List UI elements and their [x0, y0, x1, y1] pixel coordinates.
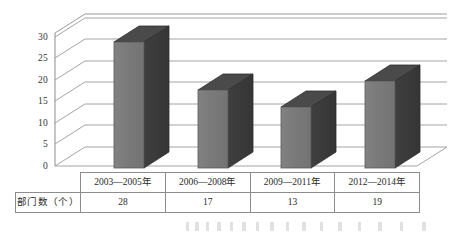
- table-value-2009-2011: 13: [250, 193, 335, 213]
- table-header-2003-2005: 2003—2005年: [81, 173, 166, 193]
- table-value-2003-2005: 28: [81, 193, 166, 213]
- table-header-2009-2011: 2009—2011年: [250, 173, 335, 193]
- table-header-2006-2008: 2006—2008年: [165, 173, 250, 193]
- table-corner-cell: [16, 173, 81, 193]
- table-row-categories: 2003—2005年 2006—2008年 2009—2011年 2012—20…: [16, 173, 420, 193]
- value-axis: [55, 33, 85, 166]
- ytick-label-10: 10: [18, 118, 48, 128]
- ytick-label-5: 5: [18, 139, 48, 149]
- ytick-label-20: 20: [18, 75, 48, 85]
- ytick-label-0: 0: [18, 161, 48, 171]
- table-row-header: 部门数（个）: [16, 193, 81, 213]
- table-row-values: 部门数（个） 28 17 13 19: [16, 193, 420, 213]
- bar-2009-2011: [281, 91, 336, 168]
- ytick-label-30: 30: [18, 32, 48, 42]
- bar-2003-2005: [114, 26, 169, 168]
- ytick-label-15: 15: [18, 96, 48, 106]
- bar-2012-2014: [365, 65, 420, 168]
- bar-2006-2008: [198, 74, 253, 168]
- ytick-label-25: 25: [18, 53, 48, 63]
- table-header-2012-2014: 2012—2014年: [335, 173, 420, 193]
- bar-chart-figure: 30 25 20 15 10 5 0 2003—2005年 2006—2008年…: [0, 0, 449, 232]
- data-table: 2003—2005年 2006—2008年 2009—2011年 2012—20…: [15, 172, 420, 213]
- table-value-2012-2014: 19: [335, 193, 420, 213]
- table-value-2006-2008: 17: [165, 193, 250, 213]
- plot-back-wall: [55, 14, 447, 33]
